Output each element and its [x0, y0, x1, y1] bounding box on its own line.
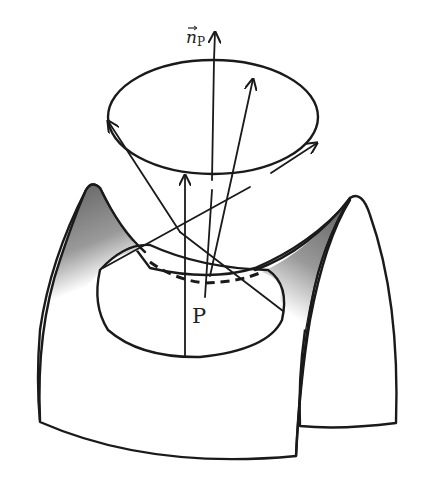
cone-generator-arrow	[232, 79, 253, 176]
normal-vector-arrow	[214, 32, 215, 60]
saddle-surface-diagram: nP P	[0, 0, 423, 484]
point-p-label: P	[192, 304, 206, 328]
cone-inner-line	[212, 60, 214, 180]
normal-vector-label: nP	[186, 27, 205, 49]
saddle-right-lobe	[300, 196, 397, 427]
right-shading	[262, 198, 350, 330]
cone-line	[205, 190, 212, 297]
inner-opening	[97, 245, 284, 357]
cone-line	[210, 176, 232, 276]
cone-generator-arrow	[108, 121, 180, 232]
cone-generator-arrow	[271, 143, 317, 173]
